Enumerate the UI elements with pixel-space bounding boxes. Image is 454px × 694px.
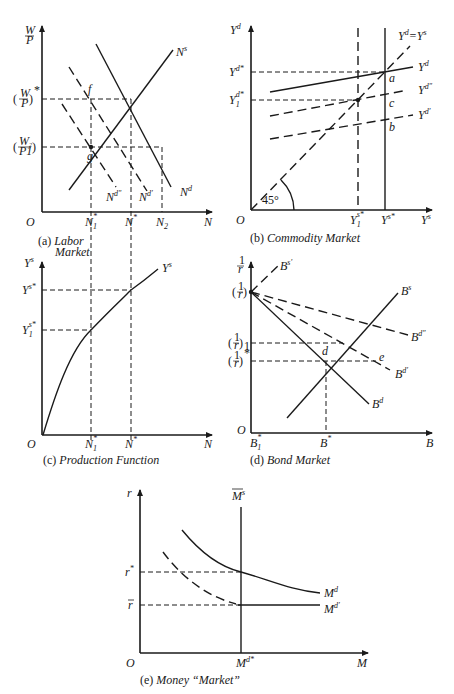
intercept-marker	[249, 290, 253, 294]
origin-label: O	[27, 437, 36, 451]
point-c-label: c	[389, 96, 395, 110]
tick-y1s-star: Y1s*	[350, 210, 364, 229]
caption-a-line2: Market	[54, 245, 90, 259]
label-yd: Yd	[418, 59, 430, 74]
y-axis-label-one-over-r: 1 r	[237, 253, 245, 276]
svg-text:r: r	[238, 262, 243, 276]
curve-45-degree	[251, 46, 410, 210]
origin-label: O	[237, 423, 246, 437]
tick-ys-star: Ys*	[22, 282, 36, 297]
tick-b-star: B*	[320, 434, 331, 450]
tick-n1-star: N1*	[84, 434, 97, 453]
svg-text:*: *	[244, 346, 250, 360]
tick-ys-star: Ys*	[381, 212, 395, 227]
tick-r-bar: r	[128, 598, 134, 612]
origin-label: O	[126, 656, 135, 670]
tick-n-star: N*	[124, 435, 137, 451]
label-bs: Bs	[401, 283, 411, 298]
tick-wp-star: ( W P ) *	[13, 83, 40, 110]
x-axis-label-n: N	[203, 437, 213, 451]
tick-one-over-r: ( 1 r )	[232, 279, 247, 301]
panel-a-labor-market: W P Ns Nd Nd′ Nd″ f g ( W P ) *	[13, 23, 213, 440]
x-axis-label-ys: Ys	[421, 212, 431, 227]
svg-text:(: (	[228, 354, 232, 368]
angle-arc	[281, 180, 294, 210]
tick-n-star: N*	[124, 213, 137, 229]
curve-nd-double-prime	[62, 104, 116, 187]
curve-nd	[96, 44, 171, 187]
curve-yd-double-prime	[270, 91, 403, 116]
svg-text:): )	[32, 140, 36, 154]
label-yd-double-prime: Yd″	[418, 82, 433, 97]
panel-e-money-market: r Ms Md Md′ r* r O Md* M (e) Money “Mark…	[125, 486, 368, 687]
tick-yd-star: Yd*	[229, 64, 244, 79]
svg-text:Ms: Ms	[231, 488, 245, 503]
label-bs-prime: Bs′	[280, 258, 292, 273]
label-yd-eq-ys: Yd=Ys	[398, 28, 427, 43]
panel-b-commodity-market: Yd 45° Yd=Ys Yd Yd″ Yd′ a c b Yd* Y1d* O…	[229, 22, 433, 245]
label-bd-double-prime: Bd″	[411, 329, 426, 344]
macro-model-figure: W P Ns Nd Nd′ Nd″ f g ( W P ) *	[0, 0, 454, 694]
label-md-prime: Md′	[323, 601, 340, 616]
curve-ns	[69, 50, 173, 190]
tick-r-star: r*	[125, 564, 134, 579]
svg-text:(: (	[228, 336, 232, 350]
tick-y1s-star: Y1s*	[22, 320, 36, 339]
x-axis-label-m: M	[356, 656, 368, 670]
svg-text:*: *	[34, 83, 40, 97]
panel-d-bond-market: 1 r Bs′ Bs Bd″ Bd′ Bd d e ( 1 r ) (	[228, 253, 434, 467]
tick-b1-star: B1*	[250, 433, 261, 452]
point-f-label: f	[88, 82, 93, 96]
label-ns: Ns	[175, 44, 187, 59]
caption-e: (e) Money “Market”	[140, 673, 240, 687]
svg-text:(: (	[13, 140, 17, 154]
curve-md	[182, 530, 320, 593]
curve-ys-production	[43, 269, 158, 435]
tick-n1-star: N1*	[84, 212, 97, 231]
svg-text:r: r	[128, 598, 133, 612]
label-md: Md	[323, 585, 339, 600]
label-nd-prime: Nd′	[138, 189, 153, 204]
svg-text:): )	[29, 92, 33, 106]
svg-text:): )	[239, 354, 243, 368]
label-nd-double-prime: Nd″	[105, 189, 122, 204]
x-axis-label-n: N	[203, 215, 213, 229]
angle-label-45: 45°	[262, 193, 279, 207]
tick-md-star: Md*	[235, 655, 254, 670]
caption-d: (d) Bond Market	[250, 453, 331, 467]
panel-c-production-function: Ys Ys Ys* Y1s* O N1* N* N (c) Production…	[22, 255, 213, 467]
label-bd-prime: Bd′	[395, 366, 408, 381]
svg-text:(: (	[13, 92, 17, 106]
curve-nd-prime	[69, 67, 147, 191]
label-m-bar-s: Ms	[231, 488, 245, 503]
svg-text:(: (	[232, 285, 236, 299]
point-e-label: e	[379, 350, 385, 364]
svg-text:): )	[243, 285, 247, 299]
caption-b: (b) Commodity Market	[250, 231, 361, 245]
point-d-label: d	[322, 344, 329, 358]
label-bd: Bd	[372, 396, 384, 411]
svg-text:P: P	[25, 33, 34, 47]
point-b-label: b	[389, 120, 395, 134]
x-axis-label-b: B	[426, 436, 434, 450]
label-yd-prime: Yd′	[418, 107, 431, 122]
svg-text:P: P	[20, 96, 29, 110]
point-a-label: a	[389, 71, 395, 85]
svg-text:P1: P1	[18, 144, 32, 158]
curve-bs-prime	[251, 266, 278, 292]
tick-n2: N2	[155, 215, 168, 231]
equilibrium-marker	[356, 98, 360, 102]
origin-label: O	[236, 213, 245, 227]
y-axis-label-ys: Ys	[24, 255, 34, 270]
origin-label: O	[26, 215, 35, 229]
label-nd: Nd	[179, 184, 193, 199]
point-g-label: g	[87, 149, 93, 163]
y-axis-label-w-over-p: W P	[25, 23, 36, 47]
y-axis-label-yd: Yd	[230, 22, 242, 37]
tick-w2-p1: ( W2 P1 )	[13, 134, 36, 158]
curve-md-prime-dashed	[163, 552, 236, 604]
y-axis-label-r: r	[127, 486, 132, 500]
caption-c: (c) Production Function	[43, 453, 159, 467]
label-ys: Ys	[162, 260, 172, 275]
tick-y1d-star: Y1d*	[229, 90, 244, 109]
